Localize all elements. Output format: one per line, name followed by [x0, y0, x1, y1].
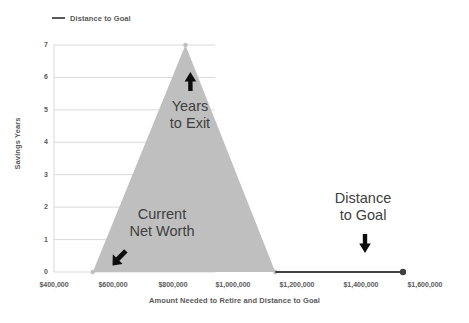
annotation-current-net-worth-line2: Net Worth	[107, 223, 217, 240]
annotation-distance-to-goal-line2: to Goal	[314, 207, 412, 224]
annotation-distance-to-goal: Distance to Goal	[314, 190, 412, 223]
annotation-years-to-exit: Years to Exit	[144, 98, 236, 131]
x-axis-title: Amount Needed to Retire and Distance to …	[0, 296, 469, 305]
data-point-apex	[183, 43, 187, 47]
annotation-current-net-worth-line1: Current	[107, 206, 217, 223]
annotation-years-to-exit-line2: to Exit	[144, 115, 236, 132]
annotation-distance-to-goal-line1: Distance	[314, 190, 412, 207]
annotation-current-net-worth: Current Net Worth	[107, 206, 217, 239]
plot-area	[0, 0, 469, 323]
x-tick-label-1200000: $1,200,000	[262, 281, 332, 289]
annotation-years-to-exit-line1: Years	[144, 98, 236, 115]
x-tick-label-1600000: $1,600,000	[390, 281, 460, 289]
x-tick-label-1400000: $1,400,000	[326, 281, 396, 289]
data-point-left-base	[91, 270, 95, 274]
distance-to-goal-endpoint-marker	[400, 269, 406, 275]
arrow-down-icon	[359, 234, 371, 253]
chart-container: Distance to Goal Savings Years 7 6 5 4 3…	[0, 0, 469, 323]
x-tick-label-1000000: $1,000,000	[198, 281, 268, 289]
